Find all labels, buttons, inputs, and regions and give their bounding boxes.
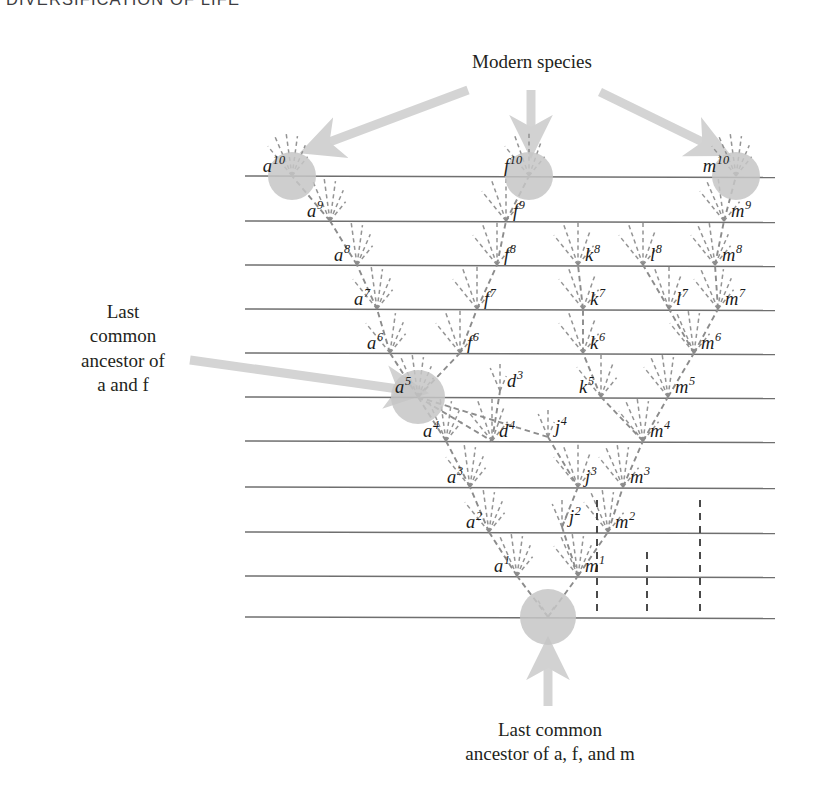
- node-label-d4: d4: [499, 418, 515, 441]
- lineage-branch: [601, 364, 613, 397]
- persistent-lineages: [597, 500, 700, 617]
- timeline-rule: [245, 576, 775, 578]
- lineage-branch: [554, 457, 578, 487]
- node-label-m2: m2: [615, 509, 635, 532]
- node-label-a9: a9: [307, 198, 323, 221]
- node-label-f10: f10: [504, 153, 522, 176]
- last-common-ancestor-afm-label: Last common ancestor of a, f, and m: [405, 718, 695, 767]
- lineage-branch: [608, 492, 613, 532]
- node-label-l7: l7: [676, 286, 688, 309]
- lineage-branch: [718, 269, 723, 309]
- last-common-ancestor-af-arrow: [190, 360, 420, 392]
- lineage-branch: [668, 357, 673, 397]
- last-common-ancestor-af-label: Last common ancestor of a and f: [38, 300, 208, 397]
- node-label-m9: m9: [731, 198, 751, 221]
- lineage-branch: [548, 422, 554, 437]
- lineage-branch: [578, 536, 583, 576]
- lineage-branch: [490, 368, 500, 391]
- lineage-branch: [552, 504, 562, 527]
- node-label-a8: a8: [334, 242, 350, 265]
- timeline-rule: [245, 397, 775, 399]
- timeline-rule: [245, 353, 775, 355]
- modern-species-label: Modern species: [432, 50, 632, 74]
- node-label-k8: k8: [585, 242, 600, 265]
- node-label-a1: a1: [494, 553, 510, 576]
- lineage-branch: [517, 536, 522, 576]
- lineage-branch: [559, 279, 583, 309]
- timeline-rule: [245, 487, 775, 489]
- modern-species-arrow-left: [308, 90, 468, 150]
- lineage-branch: [330, 181, 335, 221]
- lineage-branch: [477, 400, 492, 441]
- node-label-a6: a6: [367, 330, 383, 353]
- node-label-a5: a5: [395, 374, 411, 397]
- lineage-branch: [473, 235, 497, 265]
- node-label-j3: j3: [585, 464, 597, 487]
- lineage-branch: [324, 178, 330, 221]
- lineage-branch: [491, 180, 506, 221]
- lineage-branch: [623, 447, 628, 487]
- lineage-branch: [482, 224, 497, 265]
- lineage-branch: [462, 268, 477, 309]
- node-label-m3: m3: [630, 464, 650, 487]
- lineage-branch: [563, 224, 578, 265]
- lineage-branch: [559, 323, 583, 353]
- node-label-m10: m10: [703, 153, 729, 176]
- lineage-branch: [694, 279, 718, 309]
- lineage-branch: [453, 279, 477, 309]
- node-label-l8: l8: [650, 242, 662, 265]
- phylogenetic-tree-figure: a10f10m10a9f9m9a8f8k8l8m8a7f7k7l7m7a6f6k…: [0, 0, 815, 785]
- lineage-branch: [698, 225, 715, 265]
- lineage-branch: [701, 269, 718, 309]
- lineage-branch: [445, 312, 460, 353]
- node-label-j2: j2: [569, 504, 581, 527]
- node-label-m5: m5: [675, 374, 695, 397]
- lineage-branch: [715, 265, 718, 309]
- modern-species-arrow-right: [600, 92, 723, 152]
- node-label-f6: f6: [467, 330, 479, 353]
- timeline-rule: [245, 221, 775, 223]
- lineage-branch: [468, 411, 492, 441]
- node-label-d3: d3: [507, 368, 523, 391]
- node-label-m8: m8: [722, 242, 742, 265]
- lineage-branch: [436, 323, 460, 353]
- lineage-branch: [626, 401, 643, 441]
- lineage-branch: [500, 376, 506, 391]
- lineage-branch: [651, 357, 668, 397]
- lineage-branch: [601, 378, 617, 397]
- node-label-m7: m7: [725, 286, 745, 309]
- node-label-a4: a4: [423, 418, 439, 441]
- node-label-k5: k5: [579, 374, 594, 397]
- node-label-k7: k7: [590, 286, 605, 309]
- lineage-branch: [568, 312, 583, 353]
- lineage-branch: [694, 313, 699, 353]
- lineage-branch: [554, 235, 578, 265]
- node-label-a3: a3: [447, 464, 463, 487]
- node-highlight-circle: [520, 589, 576, 645]
- node-label-j4: j4: [555, 414, 567, 437]
- lineage-branch: [548, 437, 578, 487]
- node-label-f9: f9: [513, 198, 525, 221]
- lineage-branch: [390, 313, 395, 353]
- lineage-branch: [357, 225, 362, 265]
- lineage-branch: [643, 401, 648, 441]
- lineage-branch: [591, 492, 608, 532]
- node-label-a10: a10: [263, 153, 285, 176]
- lineage-branch: [619, 235, 643, 265]
- lineage-branch: [482, 191, 506, 221]
- lineage-branch: [489, 492, 494, 532]
- lineage-branch: [511, 533, 517, 576]
- lineage-branch: [578, 265, 583, 309]
- node-label-a2: a2: [466, 509, 482, 532]
- lineage-branch: [538, 414, 548, 437]
- timeline-rule: [245, 532, 775, 534]
- lineage-branch: [470, 447, 475, 487]
- node-label-k6: k6: [590, 330, 605, 353]
- node-label-f7: f7: [484, 286, 496, 309]
- lineage-branch: [669, 309, 694, 353]
- lineage-branch: [561, 536, 578, 576]
- timeline-rule: [245, 617, 775, 619]
- lineage-branch: [677, 313, 694, 353]
- node-label-m6: m6: [701, 330, 721, 353]
- node-label-f8: f8: [504, 242, 516, 265]
